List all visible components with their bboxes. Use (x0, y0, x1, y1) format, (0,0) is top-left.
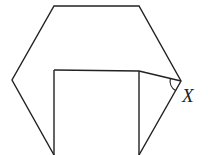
angle-label-x: X (182, 86, 194, 105)
hexagon-square-diagram: X (0, 0, 208, 155)
angle-arc (170, 79, 175, 91)
hexagon-outline (12, 6, 181, 155)
connecting-segment (139, 71, 181, 81)
square-top-edge (54, 70, 139, 71)
